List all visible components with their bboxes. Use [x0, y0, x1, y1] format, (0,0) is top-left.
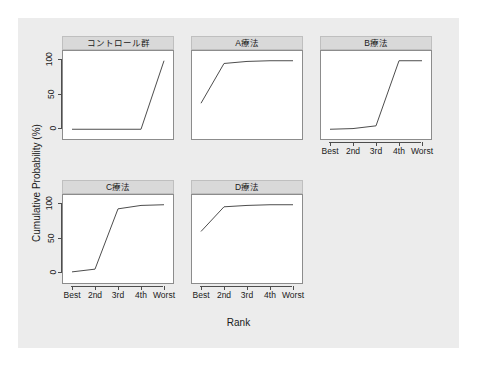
series-line-therapy-c	[63, 195, 173, 283]
y-axis-therapy-c: 050100	[36, 194, 62, 284]
y-tick-mark-100	[58, 59, 62, 60]
series-line-therapy-a	[192, 51, 302, 139]
x-tick-label-2nd: 2nd	[217, 291, 231, 300]
panel-strip-therapy-b: B療法	[320, 36, 432, 50]
y-tick-mark-0	[58, 128, 62, 129]
y-tick-label-0: 0	[49, 270, 58, 275]
x-tick-label-3rd: 3rd	[370, 147, 382, 156]
x-tick-label-Best: Best	[63, 291, 80, 300]
panel-therapy-a: A療法	[191, 36, 303, 140]
x-axis-line	[329, 142, 421, 143]
panel-title-therapy-d: D療法	[235, 183, 259, 192]
figure-root: Cumulative Probability (%) Rank コントロール群0…	[0, 0, 477, 366]
y-axis-control: 050100	[36, 50, 62, 140]
panel-title-therapy-b: B療法	[364, 39, 388, 48]
panel-title-therapy-c: C療法	[106, 183, 130, 192]
x-tick-label-3rd: 3rd	[112, 291, 124, 300]
x-tick-label-Worst: Worst	[282, 291, 304, 300]
y-tick-label-50: 50	[47, 233, 56, 242]
series-line-therapy-d	[192, 195, 302, 283]
y-tick-mark-100	[58, 203, 62, 204]
y-tick-mark-50	[58, 238, 62, 239]
plot-canvas: Cumulative Probability (%) Rank コントロール群0…	[18, 18, 459, 348]
y-tick-label-0: 0	[49, 126, 58, 131]
x-tick-label-2nd: 2nd	[346, 147, 360, 156]
y-tick-mark-0	[58, 272, 62, 273]
panel-strip-therapy-c: C療法	[62, 180, 174, 194]
panel-control: コントロール群	[62, 36, 174, 140]
plot-area-therapy-b	[320, 50, 432, 140]
y-tick-label-100: 100	[45, 53, 54, 67]
series-line-therapy-b	[321, 51, 431, 139]
plot-area-therapy-c	[62, 194, 174, 284]
x-tick-label-2nd: 2nd	[88, 291, 102, 300]
panel-strip-therapy-d: D療法	[191, 180, 303, 194]
panel-therapy-d: D療法	[191, 180, 303, 284]
panel-strip-control: コントロール群	[62, 36, 174, 50]
x-axis-therapy-d: Best2nd3rd4thWorst	[191, 286, 303, 304]
x-axis-therapy-c: Best2nd3rd4thWorst	[62, 286, 174, 304]
x-axis-therapy-b: Best2nd3rd4thWorst	[320, 142, 432, 160]
panel-therapy-c: C療法	[62, 180, 174, 284]
x-tick-label-4th: 4th	[393, 147, 405, 156]
x-axis-line	[71, 286, 163, 287]
x-tick-label-Best: Best	[192, 291, 209, 300]
y-tick-label-100: 100	[45, 197, 54, 211]
x-tick-label-Best: Best	[321, 147, 338, 156]
x-tick-label-Worst: Worst	[411, 147, 433, 156]
panel-title-control: コントロール群	[87, 39, 150, 48]
x-tick-label-4th: 4th	[264, 291, 276, 300]
x-tick-label-4th: 4th	[135, 291, 147, 300]
plot-area-control	[62, 50, 174, 140]
panel-title-therapy-a: A療法	[235, 39, 259, 48]
x-tick-label-Worst: Worst	[153, 291, 175, 300]
y-tick-mark-50	[58, 94, 62, 95]
plot-area-therapy-d	[191, 194, 303, 284]
panel-strip-therapy-a: A療法	[191, 36, 303, 50]
plot-area-therapy-a	[191, 50, 303, 140]
x-axis-line	[200, 286, 292, 287]
series-line-control	[63, 51, 173, 139]
y-tick-label-50: 50	[47, 89, 56, 98]
x-tick-label-3rd: 3rd	[241, 291, 253, 300]
x-axis-title: Rank	[18, 318, 459, 328]
panel-therapy-b: B療法	[320, 36, 432, 140]
